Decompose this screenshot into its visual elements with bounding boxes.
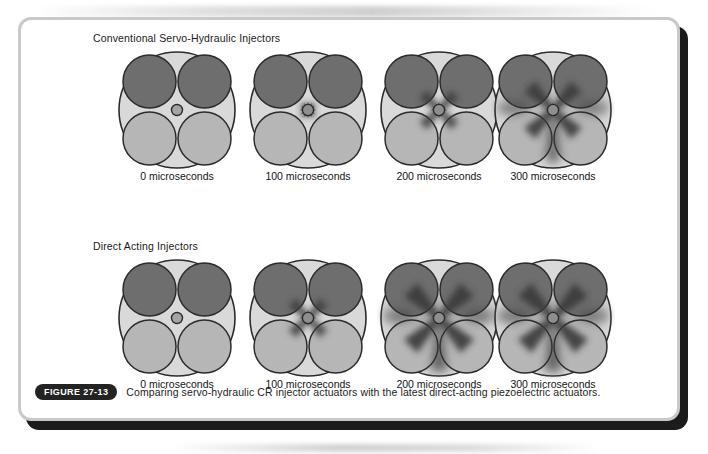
injector-diagram-conventional-0us xyxy=(115,48,239,172)
injector-diagram-conventional-300us xyxy=(491,48,615,172)
panel-heading-conventional: Conventional Servo-Hydraulic Injectors xyxy=(93,32,280,44)
stage-label-conventional-0us: 0 microseconds xyxy=(103,170,251,182)
figure-caption-text: Comparing servo-hydraulic CR injector ac… xyxy=(126,386,600,398)
injector-diagram-conventional-200us xyxy=(377,48,501,172)
figure-number-badge: FIGURE 27-13 xyxy=(35,384,117,400)
stage-conventional-300us[interactable]: 300 microseconds xyxy=(491,48,615,198)
injector-diagram-direct-0us xyxy=(115,256,239,380)
figure-root: Conventional Servo-Hydraulic Injectors 0… xyxy=(0,0,708,454)
panel-heading-direct: Direct Acting Injectors xyxy=(93,240,198,252)
stage-conventional-0us[interactable]: 0 microseconds xyxy=(115,48,239,198)
scan-artifact-bottom xyxy=(170,444,600,452)
figure-caption-bar: FIGURE 27-13 Comparing servo-hydraulic C… xyxy=(21,380,677,404)
injector-diagram-direct-100us xyxy=(246,256,370,380)
injector-diagram-direct-300us xyxy=(491,256,615,380)
injector-diagram-conventional-100us xyxy=(246,48,370,172)
scan-artifact-top xyxy=(34,6,654,17)
figure-frame: Conventional Servo-Hydraulic Injectors 0… xyxy=(18,17,680,421)
stage-conventional-100us[interactable]: 100 microseconds xyxy=(246,48,370,198)
injector-diagram-direct-200us xyxy=(377,256,501,380)
stage-label-conventional-300us: 300 microseconds xyxy=(479,170,627,182)
stage-row-conventional: 0 microseconds 100 microseconds 200 micr… xyxy=(21,48,677,198)
stage-label-conventional-100us: 100 microseconds xyxy=(234,170,382,182)
